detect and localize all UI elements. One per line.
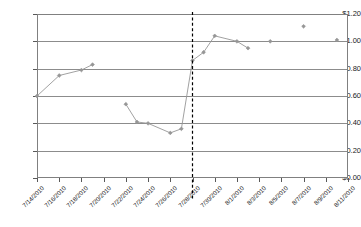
x-axis-tick-mark bbox=[326, 178, 327, 182]
x-axis-tick-mark bbox=[281, 178, 282, 182]
x-axis-tick-mark bbox=[237, 178, 238, 182]
x-axis-tick-mark bbox=[259, 178, 260, 182]
x-axis-tick-mark bbox=[148, 178, 149, 182]
x-axis-tick-mark bbox=[170, 178, 171, 182]
x-axis-tick-mark bbox=[104, 178, 105, 182]
x-axis-tick-mark bbox=[59, 178, 60, 182]
x-axis-tick-mark bbox=[304, 178, 305, 182]
gridline bbox=[38, 96, 347, 97]
x-axis-tick-mark bbox=[215, 178, 216, 182]
x-axis-tick-mark bbox=[81, 178, 82, 182]
price-line-chart: $0.00$0.20$0.40$0.60$0.80$1.00$1.20 7/14… bbox=[0, 0, 361, 227]
plot-area bbox=[37, 14, 348, 178]
gridline bbox=[38, 69, 347, 70]
x-axis-tick-mark bbox=[348, 178, 349, 182]
gridline bbox=[38, 41, 347, 42]
x-axis-tick-mark bbox=[126, 178, 127, 182]
x-axis-tick-mark bbox=[37, 178, 38, 182]
x-axis-tick-mark bbox=[193, 178, 194, 182]
gridline bbox=[38, 151, 347, 152]
gridline bbox=[38, 123, 347, 124]
